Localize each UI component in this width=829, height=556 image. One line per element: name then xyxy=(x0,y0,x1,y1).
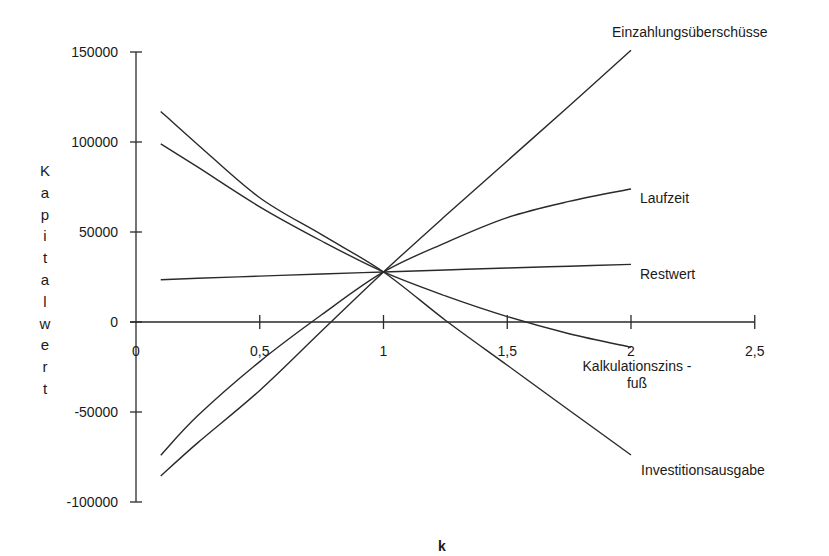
y-axis-label-letter: t xyxy=(38,247,52,269)
y-tick-label: 0 xyxy=(110,314,118,330)
y-axis-label-letter: i xyxy=(38,225,52,247)
x-tick-label: 1,5 xyxy=(498,343,518,359)
x-tick-label: 1 xyxy=(380,343,388,359)
y-axis-label-letter: a xyxy=(38,182,52,204)
y-axis-label-letter: w xyxy=(38,313,52,335)
y-tick-label: 100000 xyxy=(71,134,118,150)
x-axis-label-line2: fuß xyxy=(572,375,702,392)
x-axis-label-line1: Kalkulationszins - xyxy=(572,358,702,375)
y-axis-label-letter: e xyxy=(38,334,52,356)
x-axis-label: Kalkulationszins - fuß xyxy=(572,358,702,392)
x-tick-label: 0 xyxy=(132,343,140,359)
y-axis-label-letter: p xyxy=(38,204,52,226)
y-tick-label: 150000 xyxy=(71,44,118,60)
series-label: Einzahlungsüberschüsse xyxy=(612,24,768,40)
x-tick-label: 2 xyxy=(627,343,635,359)
y-axis-label-letter: r xyxy=(38,356,52,378)
series-labels: EinzahlungsüberschüsseLaufzeitRestwertIn… xyxy=(612,24,768,478)
series-label: Investitionsausgabe xyxy=(641,462,765,478)
series-line-investitionsausgabe xyxy=(161,111,631,455)
y-axis-label-letter: K xyxy=(38,160,52,182)
y-tick-label: 50000 xyxy=(79,224,118,240)
x-tick-label: 2,5 xyxy=(745,343,765,359)
series-lines xyxy=(161,50,631,476)
series-label: Laufzeit xyxy=(640,190,689,206)
y-tick-label: -100000 xyxy=(67,494,119,510)
y-axis-label-letter: l xyxy=(38,291,52,313)
bottom-k-label: k xyxy=(438,538,446,554)
series-line-einzahlungs-bersch-sse xyxy=(161,50,631,476)
line-chart: 150000100000500000-50000-10000000,511,52… xyxy=(0,0,829,556)
y-axis-label-letter: t xyxy=(38,378,52,400)
series-label: Restwert xyxy=(640,266,695,282)
y-axis-label-letter: a xyxy=(38,269,52,291)
y-tick-label: -50000 xyxy=(74,404,118,420)
